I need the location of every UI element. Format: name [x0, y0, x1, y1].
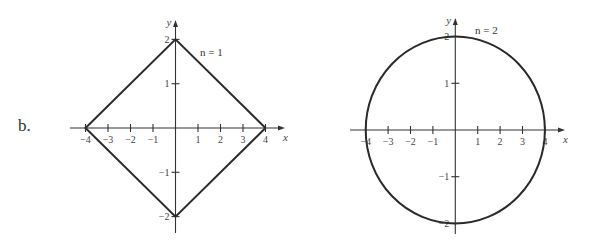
y-axis-label: y [166, 16, 172, 28]
x-tick-label: 1 [475, 136, 480, 147]
chart-2: xy−4−3−2−11234−2−112n = 2 [350, 14, 568, 234]
y-axis-label: y [445, 14, 451, 26]
x-tick-label: 1 [196, 134, 201, 145]
equation-label: n = 2 [475, 24, 498, 36]
x-tick-label: −3 [103, 134, 114, 145]
equation-label: n = 1 [200, 46, 223, 58]
y-tick-label: 2 [165, 34, 170, 45]
y-tick-label: −2 [159, 211, 170, 222]
x-tick-label: 4 [263, 134, 268, 145]
x-axis-label: x [562, 133, 568, 145]
x-tick-label: −1 [428, 136, 439, 147]
plots-canvas: xy−4−3−2−11234−2−112n = 1xy−4−3−2−11234−… [0, 0, 592, 249]
y-axis-arrow-icon [173, 20, 178, 27]
chart-1: xy−4−3−2−11234−2−112n = 1 [70, 16, 288, 233]
x-axis-arrow-icon [278, 126, 285, 131]
y-tick-label: 1 [165, 78, 170, 89]
x-tick-label: −3 [383, 136, 394, 147]
x-axis-arrow-icon [558, 128, 565, 133]
x-tick-label: 3 [520, 136, 525, 147]
x-tick-label: 2 [498, 136, 503, 147]
x-tick-label: 3 [241, 134, 246, 145]
x-tick-label: −2 [405, 136, 416, 147]
x-tick-label: −1 [148, 134, 159, 145]
y-tick-label: −1 [159, 167, 170, 178]
x-tick-label: −4 [80, 134, 91, 145]
x-tick-label: 2 [218, 134, 223, 145]
x-tick-label: −2 [125, 134, 136, 145]
y-axis-arrow-icon [453, 18, 458, 25]
x-axis-label: x [282, 131, 288, 143]
y-tick-label: −1 [439, 171, 450, 182]
y-tick-label: 1 [444, 78, 449, 89]
